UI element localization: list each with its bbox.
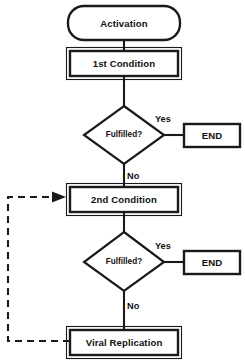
second-condition-label: 2nd Condition (91, 194, 157, 205)
edge-label-first-no: No (127, 171, 140, 181)
arrowhead-feedback-loop (52, 192, 66, 203)
first-condition-label: 1st Condition (93, 58, 156, 69)
node-activation[interactable]: Activation (68, 6, 180, 40)
viral-replication-label: Viral Replication (86, 337, 163, 348)
node-first-end[interactable]: END (184, 124, 240, 147)
second-decision-label: Fulfilled? (106, 257, 142, 266)
second-end-label: END (202, 257, 223, 268)
activation-label: Activation (100, 18, 147, 29)
first-end-label: END (202, 130, 223, 141)
node-second-decision[interactable]: Fulfilled? (84, 232, 164, 291)
connector-feedback-loop-dashed (8, 197, 70, 341)
flowchart-diagram: Activation 1st Condition Fulfilled? Yes … (0, 0, 245, 362)
edge-label-first-yes: Yes (155, 114, 171, 124)
first-decision-label: Fulfilled? (106, 130, 142, 139)
edge-label-second-no: No (127, 301, 140, 311)
node-viral-replication[interactable]: Viral Replication (67, 327, 182, 359)
node-first-decision[interactable]: Fulfilled? (84, 106, 164, 164)
node-second-end[interactable]: END (184, 251, 240, 274)
node-second-condition[interactable]: 2nd Condition (67, 184, 182, 216)
flowchart-canvas: Activation 1st Condition Fulfilled? Yes … (0, 0, 245, 362)
node-first-condition[interactable]: 1st Condition (67, 48, 182, 80)
edge-label-second-yes: Yes (155, 241, 171, 251)
